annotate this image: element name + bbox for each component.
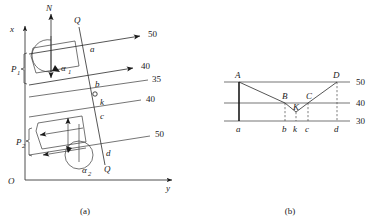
point-label-a: a: [90, 44, 95, 54]
level-value-50: 50: [356, 77, 366, 87]
level-value-30: 30: [356, 116, 366, 126]
dip-block-p1: P 1 α 1: [10, 36, 79, 84]
contour-value-40-upper: 40: [141, 61, 151, 71]
p2-brace: [26, 128, 32, 156]
panel-b: 50 40 30 A B K C D a b: [224, 70, 366, 216]
profile-label-B: B: [282, 91, 288, 101]
profile-label-K: K: [292, 102, 300, 112]
origin-label: O: [8, 176, 15, 186]
baseline-label-k: k: [293, 124, 298, 134]
panel-a-caption: (a): [80, 206, 90, 216]
normal-vector: N: [45, 3, 53, 72]
contour-line-40-upper: [29, 68, 133, 85]
figure-root: x y O N 50 40 35 40 50 Q Q: [0, 0, 376, 223]
p1-subscript: 1: [17, 69, 20, 76]
vertical-projectors: [239, 82, 337, 121]
p2-label: P: [15, 137, 22, 147]
baseline-label-b: b: [282, 124, 287, 134]
point-marker-k: [93, 92, 97, 96]
p1-label: P: [10, 64, 17, 74]
point-label-b: b: [95, 79, 100, 89]
alpha1-subscript: 1: [68, 68, 71, 75]
x-axis-label: x: [9, 24, 14, 34]
technical-figure: x y O N 50 40 35 40 50 Q Q: [0, 0, 376, 223]
normal-label: N: [45, 3, 53, 13]
section-label-q-top: Q: [74, 15, 81, 25]
alpha2-subscript: 2: [88, 170, 92, 177]
baseline-point-labels: a b k c d: [236, 124, 339, 134]
panel-a: x y O N 50 40 35 40 50 Q Q: [8, 3, 172, 216]
alpha1-label: α: [61, 63, 66, 73]
contour-line-50-upper: [29, 36, 140, 54]
baseline-label-d: d: [334, 124, 339, 134]
alpha1-arrowhead: [52, 65, 60, 72]
contour-lines: 50 40 35 40 50: [29, 29, 165, 155]
y-axis-label: y: [165, 183, 170, 193]
contour-line-35: [29, 80, 148, 97]
point-label-d: d: [106, 148, 111, 158]
contour-value-50-lower: 50: [155, 129, 165, 139]
contour-line-40-lower: [29, 100, 141, 117]
contour-value-50-upper: 50: [148, 29, 158, 39]
profile-path: [239, 82, 337, 112]
contour-value-35: 35: [152, 74, 162, 84]
contour-value-40-lower: 40: [146, 94, 156, 104]
panel-b-caption: (b): [285, 206, 296, 216]
baseline-label-c: c: [305, 124, 309, 134]
profile-label-C: C: [306, 91, 313, 101]
profile-polyline: [239, 82, 337, 112]
point-label-c: c: [100, 111, 104, 121]
p1-brace: [21, 53, 27, 84]
profile-label-D: D: [332, 70, 340, 80]
baseline-label-a: a: [236, 124, 241, 134]
alpha2-arrowhead: [66, 146, 72, 153]
p2-block-outline: [36, 116, 86, 149]
profile-label-A: A: [234, 70, 241, 80]
section-label-q-bottom: Q: [104, 164, 111, 174]
alpha2-label: α: [82, 165, 87, 175]
p2-arrow-upper: [40, 128, 83, 135]
level-value-40: 40: [356, 98, 366, 108]
